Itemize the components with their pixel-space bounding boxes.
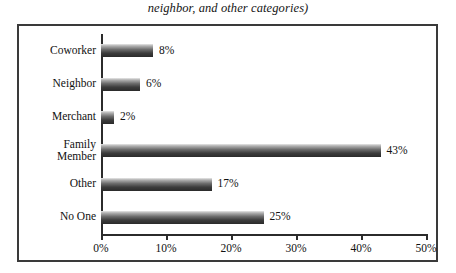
x-axis-tick — [166, 234, 168, 240]
bar-value-label: 17% — [218, 177, 239, 189]
category-label: No One — [60, 210, 101, 222]
bar — [101, 44, 153, 57]
bar-value-label: 2% — [120, 110, 135, 122]
x-axis-tick-label: 40% — [350, 242, 371, 254]
plot-area — [101, 34, 426, 234]
x-axis-tick — [296, 234, 298, 240]
x-axis-tick — [426, 234, 428, 240]
category-label: Other — [70, 177, 101, 189]
bar — [101, 178, 212, 191]
x-axis-tick-label: 10% — [155, 242, 176, 254]
category-axis-labels: CoworkerNeighborMerchantFamily MemberOth… — [19, 26, 101, 264]
bar-value-label: 25% — [270, 210, 291, 222]
x-axis-tick-label: 0% — [93, 242, 108, 254]
chart-title: neighbor, and other categories) — [0, 1, 456, 16]
category-label: Family Member — [57, 138, 101, 162]
x-axis-tick — [101, 234, 103, 240]
bar-value-label: 6% — [146, 77, 161, 89]
x-axis-tick — [231, 234, 233, 240]
bar — [101, 144, 381, 157]
x-axis-line — [101, 234, 427, 236]
category-label: Neighbor — [53, 77, 101, 89]
chart-frame: CoworkerNeighborMerchantFamily MemberOth… — [17, 24, 438, 262]
category-label: Merchant — [52, 110, 101, 122]
x-axis-tick-label: 50% — [415, 242, 436, 254]
x-axis-tick-label: 20% — [220, 242, 241, 254]
x-axis-tick-label: 30% — [285, 242, 306, 254]
category-label: Coworker — [50, 44, 101, 56]
bar — [101, 78, 140, 91]
bar — [101, 211, 264, 224]
bar-value-label: 8% — [159, 44, 174, 56]
x-axis-tick — [361, 234, 363, 240]
bar-value-label: 43% — [387, 144, 408, 156]
bar — [101, 111, 114, 124]
